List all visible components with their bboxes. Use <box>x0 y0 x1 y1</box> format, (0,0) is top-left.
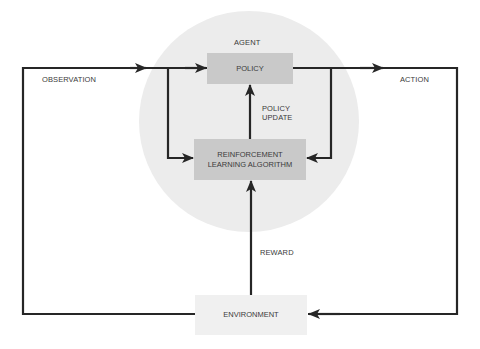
observation-label: OBSERVATION <box>42 75 96 84</box>
observation-line <box>23 68 207 314</box>
environment-box: ENVIRONMENT <box>195 295 307 335</box>
observation-branch-line <box>168 68 193 158</box>
rl-box-label-line2: LEARNING ALGORITHM <box>208 160 293 170</box>
rl-algorithm-box: REINFORCEMENT LEARNING ALGORITHM <box>194 139 306 180</box>
policy-update-label-line2: UPDATE <box>262 113 292 122</box>
policy-update-label: POLICY UPDATE <box>262 104 292 123</box>
policy-box: POLICY <box>207 53 293 84</box>
policy-update-label-line1: POLICY <box>262 104 292 113</box>
agent-label: AGENT <box>234 38 260 47</box>
action-label: ACTION <box>400 75 429 84</box>
policy-box-label: POLICY <box>236 64 264 74</box>
reward-label: REWARD <box>260 248 294 257</box>
environment-box-label: ENVIRONMENT <box>223 310 278 320</box>
rl-box-label-line1: REINFORCEMENT <box>208 150 293 160</box>
action-line <box>293 68 457 314</box>
rl-diagram: AGENT POLICY POLICY UPDATE REINFORCEMENT… <box>0 0 480 349</box>
action-branch-line <box>307 68 331 158</box>
